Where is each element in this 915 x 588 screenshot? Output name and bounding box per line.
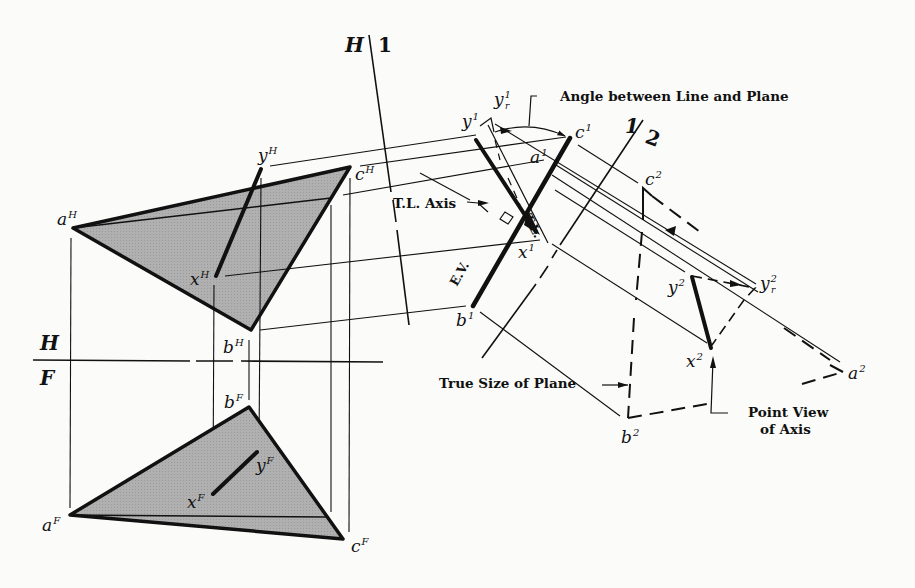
- annotation-true-size-of-plane: True Size of Plane: [439, 377, 576, 391]
- fold-label-h1-h: H: [345, 35, 364, 55]
- label-yr-1: y1r: [494, 90, 509, 111]
- label-b-h: bH: [223, 338, 244, 356]
- fold-label-h1-1: 1: [378, 35, 392, 55]
- label-y-h: yH: [258, 146, 277, 164]
- rotation-construction-view2: [692, 276, 755, 300]
- label-y-2: y2: [668, 278, 685, 296]
- label-b-f: bF: [224, 393, 243, 411]
- right-angle-mark: [500, 212, 513, 224]
- yr1-construction: [480, 118, 494, 132]
- label-x-f: xF: [187, 493, 205, 511]
- fold-label-12-1: 1: [625, 116, 639, 136]
- label-a-h: aH: [57, 210, 77, 228]
- annotation-point-view-line1: Point View: [748, 406, 828, 420]
- label-x-h: xH: [190, 270, 209, 288]
- label-c-h: cH: [355, 165, 374, 183]
- label-y-f: yF: [256, 456, 274, 474]
- annotation-point-view-line2: of Axis: [760, 423, 811, 437]
- label-b-1: b1: [456, 311, 474, 329]
- fold-label-hf-f: F: [40, 368, 54, 388]
- label-a-f: aF: [42, 516, 60, 534]
- fold-line-12: [482, 120, 643, 358]
- label-x-2: x2: [686, 352, 703, 370]
- fold-line-h1: [369, 35, 409, 325]
- label-c-2: c2: [645, 170, 662, 188]
- plane-abc-front: [70, 407, 343, 539]
- projectors-1-to-2: [480, 124, 840, 416]
- annotation-tl-axis: T.L. Axis: [393, 197, 456, 211]
- label-yr-2: y2r: [760, 274, 775, 295]
- front-view: [70, 407, 343, 539]
- label-x-1: x1: [518, 243, 535, 261]
- horizontal-view: [73, 167, 350, 330]
- true-size-plane: [628, 188, 843, 418]
- label-y-1: y1: [462, 112, 479, 130]
- label-a-2: a2: [848, 364, 866, 382]
- annotation-angle-between-line-and-plane: Angle between Line and Plane: [560, 90, 789, 104]
- auxiliary-view-2: [628, 188, 843, 418]
- edge-view-plane: [473, 138, 570, 306]
- label-c-f: cF: [351, 537, 368, 555]
- angle-leader: [529, 96, 537, 126]
- fold-label-hf-h: H: [40, 333, 59, 353]
- line-xy-view2: [692, 277, 711, 348]
- label-c-1: c1: [575, 123, 592, 141]
- label-b-2: b2: [621, 428, 639, 446]
- plane-abc-horizontal: [73, 167, 350, 330]
- label-a-1: a1: [530, 148, 548, 166]
